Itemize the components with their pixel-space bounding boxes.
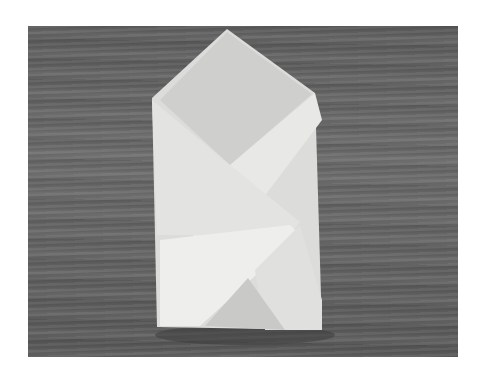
folded-paper-packet (0, 0, 478, 371)
